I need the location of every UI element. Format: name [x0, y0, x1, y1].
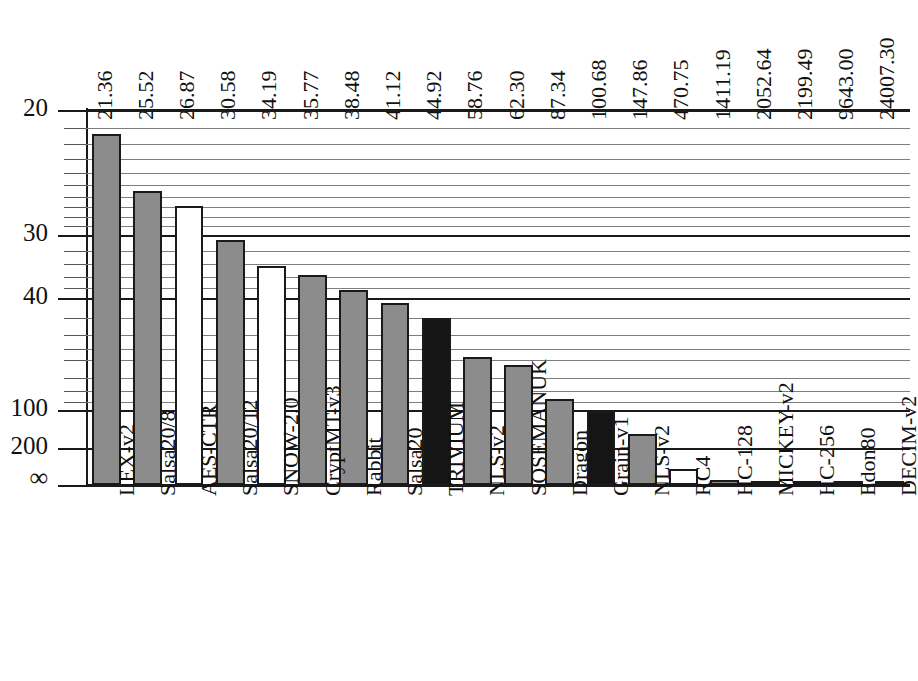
gridline-minor	[86, 144, 910, 145]
y-axis-tick-minor	[64, 217, 86, 218]
bar-chart: 203040100200∞ 21.3625.5226.8730.5834.193…	[0, 0, 918, 681]
y-axis-tick	[58, 110, 86, 112]
category-label: Dragon	[569, 430, 591, 496]
bar-value-label: 24007.30	[876, 38, 898, 121]
gridline-major	[86, 235, 910, 237]
y-axis-tick-minor	[64, 264, 86, 265]
y-axis-tick-minor	[64, 207, 86, 208]
gridline-major	[86, 110, 910, 112]
y-axis-tick-minor	[64, 402, 86, 403]
category-label: CryptMT-v3	[322, 386, 344, 496]
y-axis-tick-label: 20	[23, 95, 48, 120]
figure-caption	[90, 655, 850, 679]
y-axis-tick-minor	[64, 360, 86, 361]
gridline-minor	[86, 197, 910, 198]
category-label: LEX-v2	[116, 424, 138, 496]
gridline-minor	[86, 349, 910, 350]
gridline-major	[86, 298, 910, 300]
category-label: AES-CTR	[198, 404, 220, 496]
category-label: MICKEY-v2	[775, 382, 797, 496]
y-axis-tick-minor	[64, 226, 86, 227]
gridline-minor	[86, 226, 910, 227]
category-label: SNOW-2.0	[280, 398, 302, 496]
category-label: HC-128	[734, 425, 756, 496]
gridline-minor	[86, 335, 910, 336]
y-axis-tick-minor	[64, 391, 86, 392]
category-label: NLS-v2	[486, 425, 508, 496]
gridline-minor	[86, 277, 910, 278]
x-axis-category-labels: LEX-v2Salsa20/8AES-CTRSalsa20/12SNOW-2.0…	[86, 492, 910, 681]
y-axis-tick-minor	[64, 159, 86, 160]
y-axis-tick-minor	[64, 144, 86, 145]
category-label: Rabbit	[363, 437, 385, 496]
gridline-minor	[86, 207, 910, 208]
category-label: Salsa20/12	[239, 399, 261, 496]
category-label: Salsa20/8	[157, 410, 179, 496]
gridline-minor	[86, 173, 910, 174]
y-axis-tick-label: ∞	[29, 465, 48, 490]
y-axis-tick-minor	[64, 173, 86, 174]
y-axis-tick-minor	[64, 251, 86, 252]
y-axis-tick-label: 40	[23, 283, 48, 308]
y-axis-tick-label: 100	[11, 395, 49, 420]
category-label: TRIVIUM	[445, 402, 467, 496]
category-label: DECIM-v2	[898, 396, 918, 496]
y-axis-tick-minor	[64, 128, 86, 129]
y-axis-tick-minor	[64, 349, 86, 350]
y-axis-tick	[58, 448, 86, 450]
gridline-minor	[86, 159, 910, 160]
category-label: SOSEMANUK	[528, 359, 550, 496]
gridline-minor	[86, 185, 910, 186]
y-axis-tick	[58, 235, 86, 237]
y-axis-tick-minor	[64, 335, 86, 336]
y-axis-tick-minor	[64, 185, 86, 186]
y-axis-tick-minor	[64, 288, 86, 289]
y-axis-tick	[58, 410, 86, 412]
category-label: Grain-v1	[610, 417, 632, 496]
category-label: Edon80	[857, 428, 879, 496]
y-axis-tick-minor	[64, 318, 86, 319]
category-label: Salsa20	[404, 428, 426, 496]
y-axis-tick-minor	[64, 197, 86, 198]
gridline-minor	[86, 251, 910, 252]
gridline-minor	[86, 128, 910, 129]
gridline-minor	[86, 360, 910, 361]
category-label: NLS-v2	[651, 425, 673, 496]
gridline-minor	[86, 217, 910, 218]
y-axis-labels: 203040100200∞	[0, 0, 58, 681]
gridline-minor	[86, 378, 910, 379]
top-value-labels: 21.3625.5226.8730.5834.1935.7738.4841.12…	[86, 0, 910, 110]
y-axis-tick	[58, 485, 86, 487]
gridline-minor	[86, 288, 910, 289]
category-label: HC-256	[816, 425, 838, 496]
y-axis-tick-minor	[64, 378, 86, 379]
y-axis-tick-label: 30	[23, 220, 48, 245]
category-label: RC4	[692, 456, 714, 496]
gridline-minor	[86, 264, 910, 265]
y-axis-tick-minor	[64, 277, 86, 278]
y-axis-tick	[58, 298, 86, 300]
gridline-minor	[86, 318, 910, 319]
y-axis-tick-label: 200	[11, 433, 49, 458]
